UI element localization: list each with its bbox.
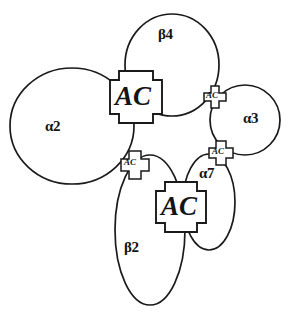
subunit-label-alpha2: α2: [45, 118, 60, 135]
binding-site-label-bottom-center: AC: [161, 191, 197, 222]
subunit-label-beta4: β4: [158, 26, 173, 43]
subunit-label-alpha3: α3: [243, 110, 258, 127]
subunit-label-beta2: β2: [124, 239, 139, 256]
diagram-canvas: β4 α2 α3 α7 β2 AC AC AC AC AC: [0, 0, 286, 320]
binding-site-label-top-left: AC: [115, 81, 151, 112]
receptor-subunit-diagram: [0, 0, 286, 320]
binding-site-label-left-middle: AC: [124, 157, 136, 167]
binding-site-label-right-upper: AC: [206, 90, 218, 100]
binding-site-label-right-middle: AC: [212, 146, 224, 156]
subunit-label-alpha7: α7: [199, 165, 214, 182]
